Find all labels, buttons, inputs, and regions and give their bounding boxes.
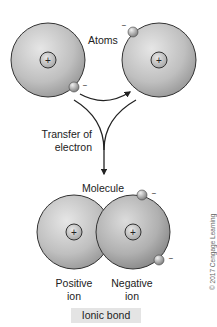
nucleus-plus: + [45, 55, 51, 66]
nucleus-plus: + [130, 227, 136, 238]
atoms-label: Atoms [88, 34, 118, 46]
negative-ion: + − − [96, 189, 174, 269]
copyright-notice: © 2017 Cengage Learning [209, 214, 216, 290]
electron-minus: − [122, 21, 127, 30]
nucleus: + [125, 224, 141, 240]
electron: − [154, 254, 174, 265]
electron-minus: − [169, 254, 174, 263]
electron-minus: − [152, 189, 157, 198]
merge-curve-right [104, 100, 136, 150]
electron-minus: − [83, 81, 88, 90]
transfer-label-line2: electron [30, 141, 92, 153]
molecule-label: Molecule [82, 182, 124, 194]
transfer-label-line1: Transfer of [30, 128, 92, 140]
atom-left: + − [11, 23, 88, 97]
nucleus: + [151, 52, 167, 68]
negative-ion-label-line1: Negative [102, 277, 162, 289]
ionic-bond-caption: Ionic bond [71, 308, 141, 323]
electron: − [122, 21, 138, 37]
positive-ion-label-line2: ion [44, 290, 104, 302]
nucleus: + [66, 224, 82, 240]
nucleus-plus: + [71, 227, 77, 238]
electron: − [69, 81, 88, 92]
atom-right: + − [122, 21, 196, 97]
positive-ion-label-line1: Positive [44, 277, 104, 289]
electron-transfer-arrow [80, 92, 130, 101]
nucleus: + [40, 52, 56, 68]
nucleus-plus: + [156, 55, 162, 66]
negative-ion-label-line2: ion [102, 290, 162, 302]
